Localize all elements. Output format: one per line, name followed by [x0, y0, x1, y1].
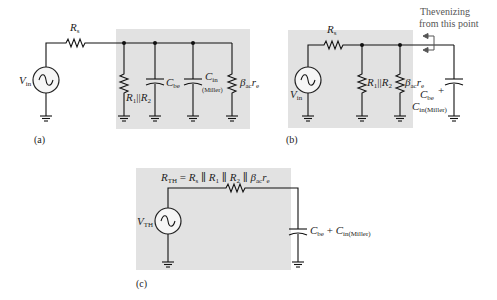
ground-icon [40, 112, 52, 121]
panel-a-background [116, 29, 250, 129]
thevenizing-note-line1: Thevenizing [420, 6, 470, 17]
thevenizing-arrows [423, 34, 434, 53]
miller-note-a: (Miller) [202, 86, 223, 94]
caption-a: (a) [34, 134, 45, 146]
ctotal-label-c: Cbe + Cin(Miller) [310, 224, 371, 238]
rth-equation: RTH = Rs ∥ R1 ∥ R2 ∥ βacre [160, 171, 270, 185]
rs-resistor-a [62, 39, 89, 47]
ground-icon [292, 258, 304, 267]
cin-miller-label-b: Cin(Miller) [412, 100, 448, 114]
caption-c: (c) [136, 278, 147, 290]
rs-label-a: Rs [69, 21, 80, 35]
thevenizing-note-line2: from this point [419, 18, 479, 29]
vth-source-c [155, 208, 181, 234]
vin-source-b [295, 67, 321, 93]
ground-icon [448, 112, 460, 121]
rs-label-b: Rs [326, 23, 337, 37]
caption-b: (b) [286, 134, 298, 146]
vin-label-a: Vin [19, 74, 32, 88]
vin-source-a [33, 67, 59, 93]
panel-b: Thevenizing from this point Rs Vin R1||R… [286, 6, 479, 146]
panel-c: RTH = Rs ∥ R1 ∥ R2 ∥ βacre VTH Cbe + Cin… [136, 168, 371, 290]
panel-a: Rs Vin R1||R2 Cbe Cin (Miller) βacre (a) [19, 21, 259, 146]
circuit-diagram: Rs Vin R1||R2 Cbe Cin (Miller) βacre (a) [0, 0, 497, 300]
